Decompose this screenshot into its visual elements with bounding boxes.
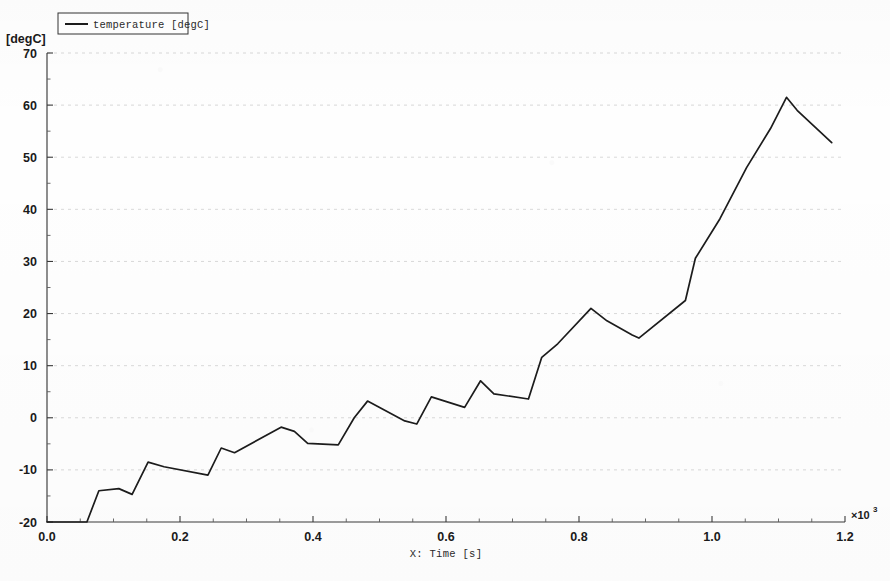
x-tick-label-0: 0.0 [38, 530, 55, 544]
series-line-0 [47, 97, 832, 522]
y-axis-unit-label: [degC] [6, 32, 46, 46]
y-axis-tick-labels: -20-10010203040506070 [19, 47, 37, 530]
data-series-group [47, 97, 832, 522]
y-tick-label-50: 50 [23, 151, 37, 165]
y-tick-label-10: 10 [23, 359, 37, 373]
legend-label-temperature: temperature [degC] [93, 19, 210, 31]
x-tick-label-0.6: 0.6 [437, 530, 454, 544]
x-tick-label-0.2: 0.2 [171, 530, 188, 544]
x-axis-exponent-label: ×10 [851, 509, 870, 521]
y-axis-ticks [47, 53, 53, 522]
y-tick-label-40: 40 [23, 203, 37, 217]
gridlines [47, 53, 845, 470]
x-tick-label-1: 1.0 [703, 530, 720, 544]
x-axis-title: X: Time [s] [410, 548, 483, 560]
y-tick-label-0: 0 [30, 411, 37, 425]
chart-legend[interactable]: temperature [degC] [58, 13, 210, 34]
x-axis-exponent-power: 3 [873, 505, 878, 514]
chart-figure: -20-10010203040506070 0.00.20.40.60.81.0… [0, 0, 890, 581]
x-tick-label-0.4: 0.4 [304, 530, 321, 544]
y-tick-label-30: 30 [23, 255, 37, 269]
x-tick-label-1.2: 1.2 [836, 530, 853, 544]
y-tick-label--20: -20 [19, 516, 37, 530]
y-tick-label-70: 70 [23, 47, 37, 61]
y-tick-label-60: 60 [23, 99, 37, 113]
y-tick-label--10: -10 [19, 463, 37, 477]
x-axis-ticks [47, 516, 845, 522]
x-tick-label-0.8: 0.8 [570, 530, 587, 544]
y-tick-label-20: 20 [23, 307, 37, 321]
x-axis-tick-labels: 0.00.20.40.60.81.01.2 [38, 530, 853, 544]
temperature-time-line-chart: -20-10010203040506070 0.00.20.40.60.81.0… [0, 0, 890, 581]
